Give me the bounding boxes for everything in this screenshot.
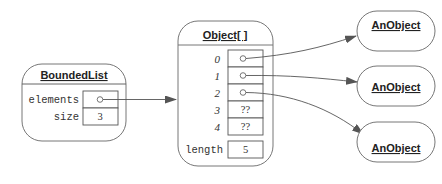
reference-dot-icon bbox=[240, 56, 246, 62]
array-index-2: 2 bbox=[215, 87, 221, 99]
field-value-size: 3 bbox=[97, 111, 102, 122]
anobject-1-frame bbox=[357, 11, 435, 51]
array-object: Object[ ] 0 1 2 3 4 ?? ?? length 5 bbox=[178, 21, 273, 166]
array-index-0: 0 bbox=[215, 53, 221, 65]
anobject-2-title: AnObject bbox=[372, 81, 421, 93]
array-title: Object[ ] bbox=[203, 29, 248, 41]
array-length-label: length bbox=[185, 144, 223, 156]
anobject-3: AnObject bbox=[357, 122, 435, 162]
array-value-3: ?? bbox=[241, 104, 251, 115]
anobject-1: AnObject bbox=[357, 11, 435, 51]
bounded-list-title: BoundedList bbox=[40, 69, 108, 81]
field-label-size: size bbox=[54, 111, 79, 123]
array-index-4: 4 bbox=[215, 121, 221, 133]
object-diagram: BoundedList elements size 3 Object[ ] 0 … bbox=[0, 0, 442, 184]
reference-dot-icon bbox=[97, 97, 103, 103]
anobject-2: AnObject bbox=[357, 66, 435, 106]
anobject-3-title: AnObject bbox=[372, 142, 421, 154]
anobject-1-title: AnObject bbox=[372, 19, 421, 31]
bounded-list-object: BoundedList elements size 3 bbox=[22, 64, 126, 141]
reference-dot-icon bbox=[240, 73, 246, 79]
array-length-value: 5 bbox=[243, 144, 248, 155]
array-value-4: ?? bbox=[241, 121, 251, 132]
array-index-3: 3 bbox=[214, 104, 221, 116]
array-index-1: 1 bbox=[215, 70, 221, 82]
reference-dot-icon bbox=[240, 90, 246, 96]
field-label-elements: elements bbox=[29, 94, 79, 106]
